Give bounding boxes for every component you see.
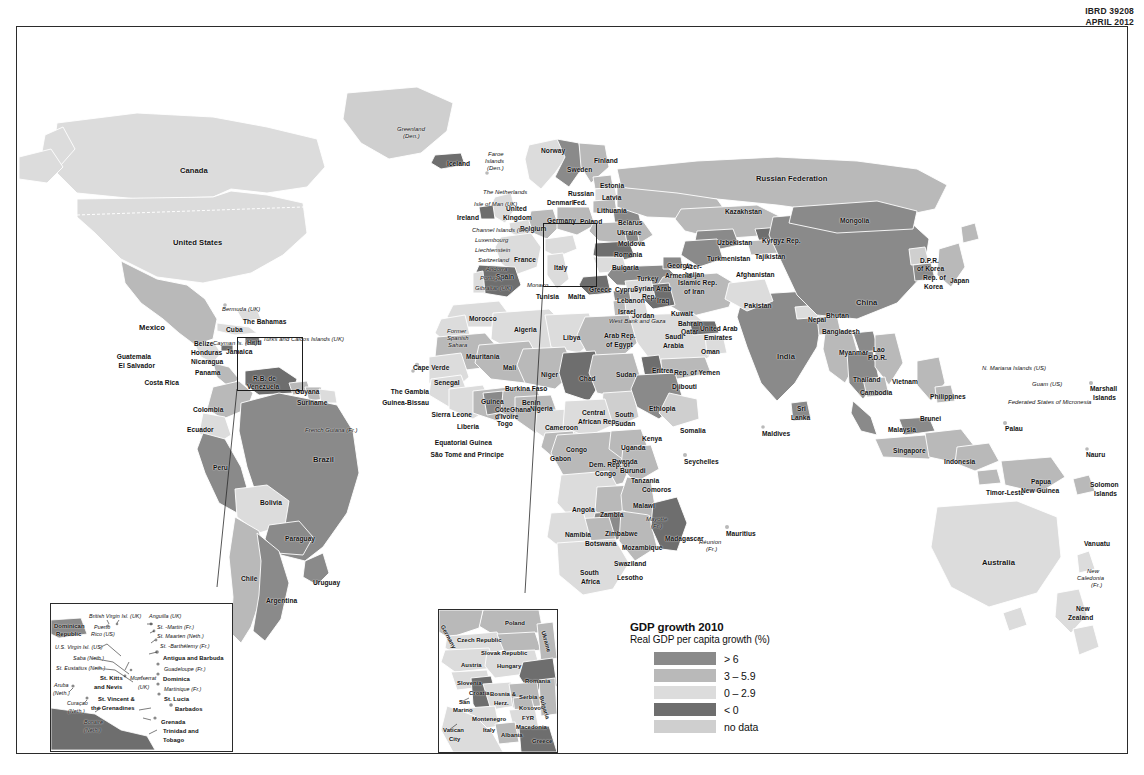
caribbean-label: St. Maarten (Neth.) — [157, 633, 204, 639]
europe-inset-label: Herz. — [494, 700, 509, 707]
country-label: Comoros — [642, 486, 671, 493]
legend-subtitle: Real GDP per capita growth (%) — [630, 634, 830, 645]
territory-label: (Den.) — [403, 133, 420, 140]
territory-label: Former — [447, 328, 466, 335]
country-label: Malta — [568, 293, 585, 300]
caribbean-label: Trinidad and — [163, 728, 199, 735]
territory-label: West Bank and Gaza — [609, 318, 665, 325]
country-label: The Gambia — [391, 388, 429, 395]
country-label: Tajikistan — [755, 253, 785, 260]
territory-label: Isle of Man (UK) — [474, 201, 517, 208]
country-label: India — [777, 353, 795, 361]
country-label: Lebanon — [617, 297, 645, 304]
country-label: Chile — [241, 575, 257, 582]
country-label: Singapore — [893, 447, 926, 454]
legend-label-1: 3 – 5.9 — [724, 670, 755, 682]
caribbean-label: Republic — [56, 631, 81, 638]
country-label: Mauritius — [726, 530, 756, 537]
country-label: Tanzania — [631, 477, 659, 484]
country-label: Africa — [581, 578, 600, 585]
legend-swatch-0 — [654, 652, 716, 665]
territory-label: (Fr.) — [1091, 582, 1102, 589]
caribbean-label: Saba (Neth.) — [73, 655, 104, 661]
country-label: Chad — [579, 375, 596, 382]
caribbean-label: Curaçao — [67, 700, 88, 706]
legend-label-0: > 6 — [724, 653, 739, 665]
europe-inset-label: Greece — [532, 738, 552, 745]
europe-inset-label: Czech Republic — [457, 637, 502, 644]
legend-row: 3 – 5.9 — [630, 667, 830, 684]
country-label: Mozambique — [622, 544, 662, 551]
country-label: Zimbabwe — [605, 530, 638, 537]
country-label: Azer- — [685, 263, 702, 270]
europe-inset-label: Vatican — [443, 727, 464, 734]
country-label: China — [856, 299, 877, 307]
map-frame: CanadaUnited StatesMexicoGuatemalaBelize… — [16, 26, 1128, 754]
caribbean-label: St. Eustatius (Neth.) — [56, 665, 105, 671]
country-label: Benin — [522, 399, 541, 406]
country-label: D.P.R. — [920, 257, 939, 264]
country-label: Emirates — [704, 334, 732, 341]
country-label: Panama — [195, 369, 221, 376]
country-label: Ireland — [457, 214, 479, 221]
country-label: Turkey — [637, 275, 658, 282]
country-label: United States — [173, 239, 222, 247]
country-label: Guinea-Bissau — [382, 399, 429, 406]
europe-inset-label: Macedonia — [516, 724, 547, 731]
country-label: Palau — [1005, 425, 1023, 432]
inset-caribbean[interactable]: British Virgin Isl. (UK)Anguilla (UK)Dom… — [50, 603, 233, 752]
territory-label: New — [1087, 568, 1099, 575]
caribbean-label: St. -Martin (Fr.) — [157, 624, 194, 630]
country-label: Mali — [503, 364, 516, 371]
legend-rows: > 63 – 5.90 – 2.9< 0no data — [630, 650, 830, 735]
country-label: Libya — [563, 334, 580, 341]
country-label: Lithuania — [597, 207, 627, 214]
country-label: Ukraine — [617, 229, 642, 236]
country-label: Somalia — [680, 427, 706, 434]
country-label: Kazakhstan — [725, 208, 762, 215]
europe-inset-label: Montenegro — [472, 716, 506, 723]
caribbean-label: Grenada — [161, 719, 185, 726]
caribbean-label: U.S. Virgin Isl. (US) — [55, 644, 103, 650]
country-label: Belarus — [618, 219, 643, 226]
territory-label: Channel Islands (UK) — [472, 227, 529, 234]
country-label: United Arab — [700, 325, 738, 332]
country-label: Ecuador — [187, 426, 214, 433]
locator-rect-caribbean — [237, 337, 303, 391]
country-label: Finland — [594, 157, 618, 164]
territory-label: French Guiana (Fr.) — [305, 427, 357, 434]
country-label: Costa Rica — [144, 379, 179, 386]
map-credit: IBRD 39208 APRIL 2012 — [1085, 6, 1134, 28]
country-label: Malaysia — [888, 426, 916, 433]
country-label: The Bahamas — [243, 318, 286, 325]
country-label: Uganda — [621, 444, 645, 451]
country-label: Sudan — [616, 371, 636, 378]
country-label: Senegal — [434, 379, 460, 386]
country-label: Mexico — [139, 324, 165, 332]
country-label: Tunisia — [536, 293, 559, 300]
country-label: Sweden — [567, 166, 592, 173]
map-page: CanadaUnited StatesMexicoGuatemalaBelize… — [0, 0, 1144, 775]
europe-inset-label: Poland — [505, 620, 525, 627]
territory-label: The Netherlands — [483, 189, 527, 196]
country-label: Timor-Leste — [986, 489, 1024, 496]
country-label: Liberia — [457, 423, 479, 430]
country-label: Oman — [701, 348, 720, 355]
country-label: Nepal — [808, 316, 826, 323]
caribbean-label: Tobago — [163, 737, 184, 744]
country-label: Suriname — [297, 399, 327, 406]
country-label: New — [1076, 605, 1090, 612]
territory-label: Sahara — [448, 342, 467, 349]
country-label: P.D.R. — [868, 354, 887, 361]
legend-row: no data — [630, 718, 830, 735]
territory-label: Faroe — [488, 151, 504, 158]
country-label: Mauritania — [466, 353, 499, 360]
inset-central-europe[interactable]: PolandGermanyCzech RepublicUkraineSlovak… — [438, 609, 558, 753]
territory-label: Federated States of Micronesia — [1008, 399, 1091, 406]
country-label: Bangladesh — [822, 328, 860, 335]
country-label: Korea — [924, 283, 943, 290]
country-label: Congo — [566, 446, 587, 453]
country-label: of Iran — [684, 288, 705, 295]
legend-label-3: < 0 — [724, 704, 739, 716]
country-label: Brazil — [313, 456, 334, 464]
